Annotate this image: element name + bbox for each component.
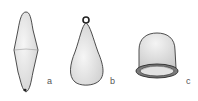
label-a: a bbox=[47, 77, 52, 86]
label-b: b bbox=[110, 77, 115, 86]
sinker-b bbox=[70, 17, 103, 85]
label-c: c bbox=[186, 77, 191, 86]
sinker-a bbox=[14, 12, 38, 92]
sinker-c bbox=[136, 33, 178, 78]
sinker-illustration: a b c bbox=[0, 0, 198, 101]
illustration-canvas bbox=[0, 0, 198, 101]
